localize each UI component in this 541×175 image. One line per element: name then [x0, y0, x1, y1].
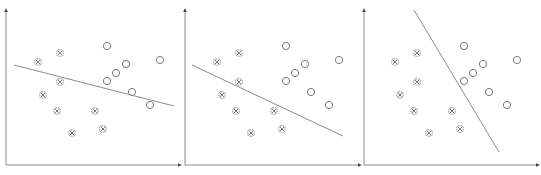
decision-boundary-line: [14, 65, 174, 106]
circle-marker-icon: [282, 42, 289, 49]
cross-marker-icon: [219, 92, 225, 98]
circle-marker-icon: [485, 88, 492, 95]
decision-boundary-line: [192, 65, 343, 136]
circle-marker-icon: [291, 69, 298, 76]
x-axis-arrow-icon: [536, 163, 540, 167]
circle-marker-icon: [103, 42, 110, 49]
cross-marker-icon: [248, 130, 254, 136]
cross-marker-icon: [279, 126, 285, 132]
cross-marker-icon: [57, 79, 63, 85]
cross-marker-icon: [40, 92, 46, 98]
cross-marker-icon: [35, 59, 41, 65]
cross-marker-icon: [214, 59, 220, 65]
cross-marker-icon: [100, 126, 106, 132]
cross-marker-icon: [233, 108, 239, 114]
cross-marker-icon: [392, 59, 398, 65]
cross-marker-icon: [411, 108, 417, 114]
circle-marker-icon: [335, 56, 342, 63]
circle-marker-icon: [513, 56, 520, 63]
scatter-panel: [362, 8, 540, 167]
circle-marker-icon: [282, 77, 289, 84]
cross-marker-icon: [414, 79, 420, 85]
circle-marker-icon: [460, 42, 467, 49]
cross-marker-icon: [449, 108, 455, 114]
circle-marker-icon: [325, 101, 332, 108]
scatter-panel: [4, 8, 182, 167]
scatter-panel: [183, 8, 362, 167]
cross-marker-icon: [69, 130, 75, 136]
diagram-canvas: [0, 0, 541, 175]
y-axis-arrow-icon: [183, 8, 187, 12]
cross-marker-icon: [57, 50, 63, 56]
cross-marker-icon: [236, 50, 242, 56]
cross-marker-icon: [414, 50, 420, 56]
cross-marker-icon: [54, 108, 60, 114]
x-axis-arrow-icon: [178, 163, 182, 167]
y-axis-arrow-icon: [362, 8, 366, 12]
circle-marker-icon: [479, 60, 486, 67]
circle-marker-icon: [307, 88, 314, 95]
circle-marker-icon: [460, 77, 467, 84]
circle-marker-icon: [156, 56, 163, 63]
circle-marker-icon: [503, 101, 510, 108]
x-axis-arrow-icon: [358, 163, 362, 167]
cross-marker-icon: [236, 79, 242, 85]
y-axis-arrow-icon: [4, 8, 8, 12]
cross-marker-icon: [92, 108, 98, 114]
cross-marker-icon: [457, 126, 463, 132]
cross-marker-icon: [426, 130, 432, 136]
circle-marker-icon: [146, 101, 153, 108]
circle-marker-icon: [301, 60, 308, 67]
circle-marker-icon: [103, 77, 110, 84]
circle-marker-icon: [112, 69, 119, 76]
cross-marker-icon: [271, 108, 277, 114]
circle-marker-icon: [122, 60, 129, 67]
circle-marker-icon: [469, 69, 476, 76]
classifier-diagram: [0, 0, 541, 175]
cross-marker-icon: [397, 92, 403, 98]
